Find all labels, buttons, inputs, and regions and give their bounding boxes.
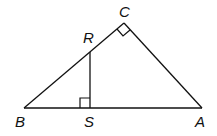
label-a: A xyxy=(194,113,205,130)
triangle-diagram: C R B S A xyxy=(0,0,217,136)
segment-ca xyxy=(124,23,202,108)
right-angle-marker-c xyxy=(117,29,130,36)
right-angle-marker-s xyxy=(80,98,90,108)
label-s: S xyxy=(84,113,94,130)
segment-bc xyxy=(24,23,124,108)
label-c: C xyxy=(119,3,130,20)
label-r: R xyxy=(83,29,94,46)
label-b: B xyxy=(15,113,25,130)
